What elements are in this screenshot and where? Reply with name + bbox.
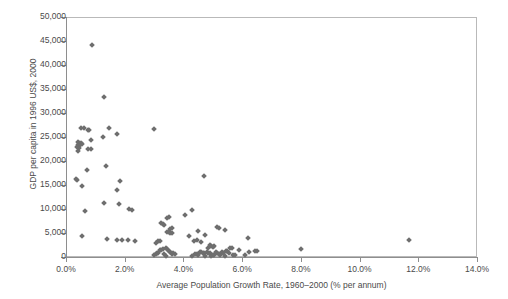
scatter-chart-figure: 05,00010,00015,00020,00025,00030,00035,0… (0, 0, 508, 299)
x-tick-mark (477, 257, 478, 262)
y-axis-title: GDP per capita in 1996 US$, 2000 (28, 29, 38, 219)
y-tick-label: 35,000 (20, 84, 66, 93)
y-tick-label: 25,000 (20, 132, 66, 141)
y-axis-line (66, 17, 67, 258)
y-tick-label: 30,000 (20, 108, 66, 117)
y-tick-label: 20,000 (20, 156, 66, 165)
x-tick-label: 2.0% (95, 264, 155, 274)
y-tick-label: 10,000 (20, 204, 66, 213)
y-tick-label: 0 (20, 252, 66, 261)
x-tick-mark (418, 257, 419, 262)
x-tick-label: 0.0% (36, 264, 96, 274)
y-tick-label: 50,000 (20, 12, 66, 21)
x-axis-line (66, 257, 478, 258)
y-tick-label: 45,000 (20, 36, 66, 45)
x-tick-label: 4.0% (153, 264, 213, 274)
x-axis-title: Average Population Growth Rate, 1960–200… (66, 280, 477, 290)
x-tick-label: 8.0% (271, 264, 331, 274)
x-tick-mark (301, 257, 302, 262)
plot-area-frame (66, 17, 477, 257)
x-tick-label: 14.0% (447, 264, 507, 274)
x-tick-mark (66, 257, 67, 262)
x-tick-label: 10.0% (330, 264, 390, 274)
x-tick-mark (360, 257, 361, 262)
x-tick-mark (183, 257, 184, 262)
x-tick-label: 12.0% (388, 264, 448, 274)
y-tick-label: 5,000 (20, 228, 66, 237)
y-tick-label: 15,000 (20, 180, 66, 189)
x-tick-mark (125, 257, 126, 262)
x-tick-label: 6.0% (212, 264, 272, 274)
y-tick-label: 40,000 (20, 60, 66, 69)
x-tick-mark (242, 257, 243, 262)
